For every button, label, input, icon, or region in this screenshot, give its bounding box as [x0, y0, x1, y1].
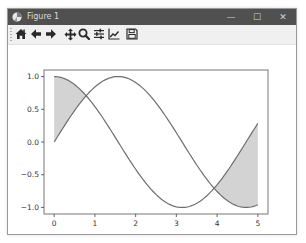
toolbar-grip[interactable]	[10, 28, 12, 41]
x-tick-label: 3	[174, 219, 179, 228]
x-tick-label: 5	[255, 219, 260, 228]
figure-canvas[interactable]: 0123451.00.50.0−0.5−1.0	[8, 45, 296, 234]
fill-region-1	[54, 77, 86, 142]
close-button[interactable]: ✕	[270, 9, 296, 25]
save-button[interactable]	[125, 27, 139, 41]
figure-window: Figure 1 — ☐ ✕	[7, 8, 297, 235]
y-tick-label: −1.0	[21, 203, 39, 212]
edit-parameters-button[interactable]	[107, 27, 121, 41]
pan-button[interactable]	[63, 27, 77, 41]
zoom-button[interactable]	[77, 27, 91, 41]
y-tick-label: 1.0	[27, 72, 39, 81]
y-tick-label: 0.0	[27, 138, 39, 147]
app-logo-icon	[12, 12, 22, 22]
maximize-icon: ☐	[253, 12, 261, 22]
window-title: Figure 1	[27, 11, 59, 23]
x-tick-label: 4	[215, 219, 220, 228]
back-button[interactable]	[29, 27, 43, 41]
close-icon: ✕	[279, 12, 287, 22]
move-icon	[64, 28, 77, 41]
home-button[interactable]	[14, 27, 28, 41]
x-tick-label: 2	[133, 219, 138, 228]
y-tick-label: −0.5	[21, 170, 39, 179]
y-tick-label: 0.5	[27, 105, 39, 114]
forward-button[interactable]	[44, 27, 58, 41]
navigation-toolbar	[8, 25, 296, 45]
line-chart-icon	[108, 28, 120, 40]
x-tick-label: 0	[52, 219, 57, 228]
arrow-right-icon	[45, 28, 57, 40]
configure-subplots-button[interactable]	[92, 27, 106, 41]
magnifier-icon	[78, 28, 90, 40]
plot-area[interactable]: 0123451.00.50.0−0.5−1.0	[8, 45, 296, 235]
minimize-icon: —	[227, 12, 236, 22]
x-tick-label: 1	[93, 219, 98, 228]
home-icon	[15, 28, 27, 40]
title-bar[interactable]: Figure 1 — ☐ ✕	[8, 9, 296, 25]
floppy-disk-icon	[126, 28, 138, 40]
minimize-button[interactable]: —	[218, 9, 244, 25]
maximize-button[interactable]: ☐	[244, 9, 270, 25]
sliders-icon	[93, 28, 105, 40]
arrow-left-icon	[30, 28, 42, 40]
